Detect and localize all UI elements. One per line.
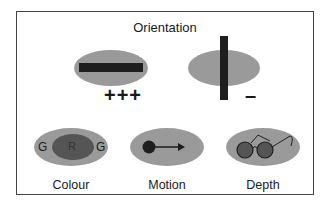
- horizontal-bar: [79, 63, 143, 72]
- dot-arrow-icon: [140, 136, 196, 158]
- colour-center-letter: R: [68, 140, 76, 152]
- glasses-icon: [228, 130, 300, 164]
- strong-response-symbol: +++: [104, 84, 142, 107]
- colour-surround-left: G: [38, 140, 47, 154]
- colour-label: Colour: [31, 178, 111, 192]
- weak-response-symbol: –: [245, 84, 257, 107]
- diagram-frame: [16, 11, 314, 195]
- colour-surround-right: G: [96, 140, 105, 154]
- motion-label: Motion: [127, 178, 207, 192]
- orientation-title: Orientation: [0, 20, 330, 35]
- depth-label: Depth: [223, 178, 303, 192]
- vertical-bar: [220, 36, 228, 100]
